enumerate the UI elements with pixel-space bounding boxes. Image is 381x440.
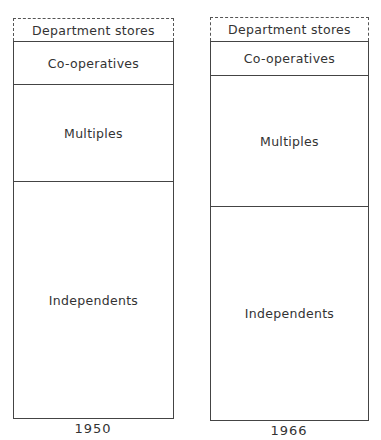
segment-label: Independents <box>245 306 334 321</box>
segment-co-operatives-1966: Co-operatives <box>210 41 369 76</box>
segment-department-stores-1950: Department stores <box>13 18 174 41</box>
segment-label: Co-operatives <box>48 56 139 71</box>
bar-1950: Department stores Co-operatives Multiple… <box>13 18 174 419</box>
year-label-1966: 1966 <box>249 423 329 438</box>
segment-label: Department stores <box>32 23 155 38</box>
segment-independents-1950: Independents <box>13 182 174 419</box>
bar-1966: Department stores Co-operatives Multiple… <box>210 17 369 421</box>
segment-label: Independents <box>49 293 138 308</box>
segment-label: Multiples <box>260 134 319 149</box>
year-label-1950: 1950 <box>53 421 133 436</box>
segment-multiples-1950: Multiples <box>13 85 174 182</box>
segment-multiples-1966: Multiples <box>210 76 369 207</box>
segment-label: Co-operatives <box>244 51 335 66</box>
segment-co-operatives-1950: Co-operatives <box>13 41 174 85</box>
segment-label: Multiples <box>64 126 123 141</box>
segment-independents-1966: Independents <box>210 207 369 421</box>
segment-label: Department stores <box>228 22 351 37</box>
segment-department-stores-1966: Department stores <box>210 17 369 41</box>
